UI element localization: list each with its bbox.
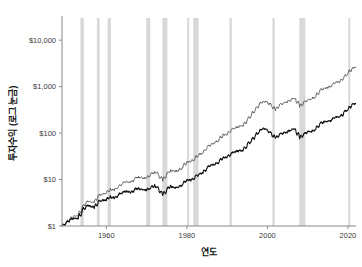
recession-band-6 [193,18,198,226]
x-tick-label-0: 1960 [98,231,115,240]
y-tick-label-2: $100 [39,129,56,138]
recession-band-5 [187,18,189,226]
x-tick-label-3: 2020 [340,231,357,240]
recession-band-2 [108,18,111,226]
x-axis-title: 연도 [201,247,218,257]
x-tick-label-1: 1980 [179,231,196,240]
recession-band-0 [80,18,83,226]
y-tick-label-4: $10,000 [29,36,56,45]
recession-band-8 [272,18,274,226]
recession-band-9 [299,18,305,226]
y-tick-label-3: $1,000 [33,82,56,91]
y-axis-title: 투자수익 (로그 눈금) [7,86,18,161]
recession-band-10 [348,18,350,226]
investment-growth-log-chart: $1$10$100$1,000$10,000 1960198020002020 … [0,0,362,267]
y-tick-label-0: $1 [48,222,56,231]
recession-band-7 [229,18,231,226]
recession-band-3 [146,18,150,226]
chart-container: $1$10$100$1,000$10,000 1960198020002020 … [0,0,362,267]
y-tick-label-1: $10 [43,175,56,184]
x-tick-label-2: 2000 [259,231,276,240]
